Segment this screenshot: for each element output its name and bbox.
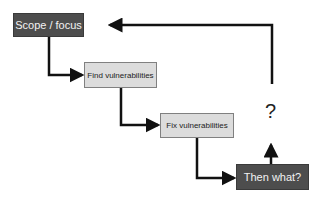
question-mark: ? — [265, 100, 276, 123]
node-label: Then what? — [244, 171, 301, 183]
node-fix-vulnerabilities: Fix vulnerabilities — [160, 113, 234, 138]
node-label: Fix vulnerabilities — [166, 121, 227, 130]
node-scope-focus: Scope / focus — [13, 13, 84, 37]
node-label: Find vulnerabilities — [87, 71, 153, 80]
node-then-what: Then what? — [236, 164, 309, 190]
node-find-vulnerabilities: Find vulnerabilities — [84, 62, 157, 88]
node-label: Scope / focus — [15, 19, 82, 31]
